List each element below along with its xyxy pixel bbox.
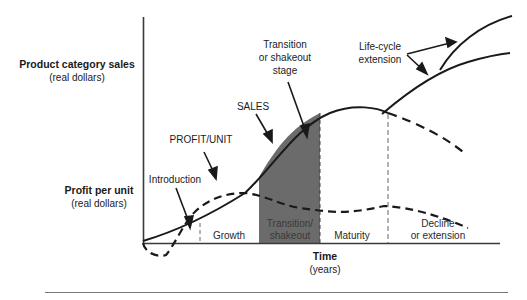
sales-axis-title: Product category sales <box>19 58 135 70</box>
stage-decline-label-2: or extension <box>411 230 465 241</box>
stage-transition-label-1: Transition/ <box>267 218 314 229</box>
profit-axis-title: Profit per unit <box>65 184 134 196</box>
stage-growth-label: Growth <box>213 230 245 241</box>
arrow-sales <box>256 114 272 142</box>
extension-callout-line-1: Life-cycle <box>359 41 402 52</box>
stage-decline-label-1: Decline <box>421 218 455 229</box>
transition-callout-line-1: Transition <box>263 39 307 50</box>
product-life-cycle-diagram: Product category sales (real dollars) Pr… <box>0 0 527 300</box>
stage-maturity-label: Maturity <box>334 230 370 241</box>
extension-callout-line-2: extension <box>359 54 402 65</box>
arrow-profit-unit <box>204 152 217 179</box>
sales-curve-label: SALES <box>237 101 270 112</box>
sales-axis-subtitle: (real dollars) <box>49 72 105 83</box>
x-axis-title: Time <box>313 250 337 262</box>
profit-curve-label: PROFIT/UNIT <box>170 134 233 145</box>
x-axis-subtitle: (years) <box>309 264 340 275</box>
profit-axis-subtitle: (real dollars) <box>71 198 127 209</box>
introduction-callout: Introduction <box>149 174 201 185</box>
arrow-introduction <box>176 188 193 228</box>
transition-callout-line-3: stage <box>273 65 298 76</box>
sales-decline-curve <box>388 113 463 152</box>
stage-transition-label-2: shakeout <box>270 230 311 241</box>
transition-callout-line-2: or shakeout <box>259 52 311 63</box>
